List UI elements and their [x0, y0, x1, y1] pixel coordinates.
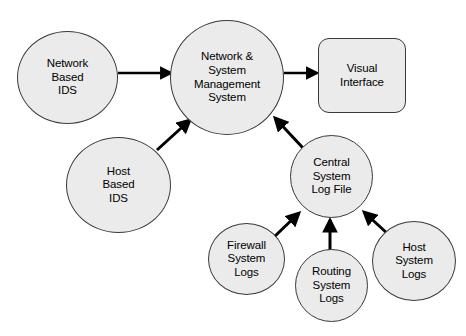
node-routing-system-logs[interactable]: Routing System Logs	[295, 249, 368, 322]
node-label-firewall-system-logs: Firewall System Logs	[227, 239, 266, 280]
node-firewall-system-logs[interactable]: Firewall System Logs	[208, 223, 285, 295]
node-label-network-based-ids: Network Based IDS	[47, 57, 88, 98]
node-visual-interface[interactable]: Visual Interface	[318, 38, 406, 113]
node-label-network-system-management-system: Network & System Management System	[194, 50, 260, 104]
node-network-based-ids[interactable]: Network Based IDS	[17, 31, 118, 124]
diagram-canvas: Network Based IDS Network & System Manag…	[0, 0, 466, 336]
edge-host-ids-to-management	[157, 120, 190, 150]
node-host-system-logs[interactable]: Host System Logs	[372, 221, 456, 301]
node-central-system-log-file[interactable]: Central System Log File	[290, 135, 373, 218]
edge-firewall-logs-to-log-file	[274, 213, 299, 237]
edge-log-file-to-management	[275, 118, 303, 148]
node-host-based-ids[interactable]: Host Based IDS	[66, 137, 171, 233]
node-label-central-system-log-file: Central System Log File	[311, 156, 351, 197]
node-label-visual-interface: Visual Interface	[340, 62, 384, 89]
node-network-system-management-system[interactable]: Network & System Management System	[170, 20, 284, 135]
node-label-routing-system-logs: Routing System Logs	[312, 265, 351, 306]
node-label-host-system-logs: Host System Logs	[395, 241, 433, 282]
node-label-host-based-ids: Host Based IDS	[102, 165, 134, 206]
